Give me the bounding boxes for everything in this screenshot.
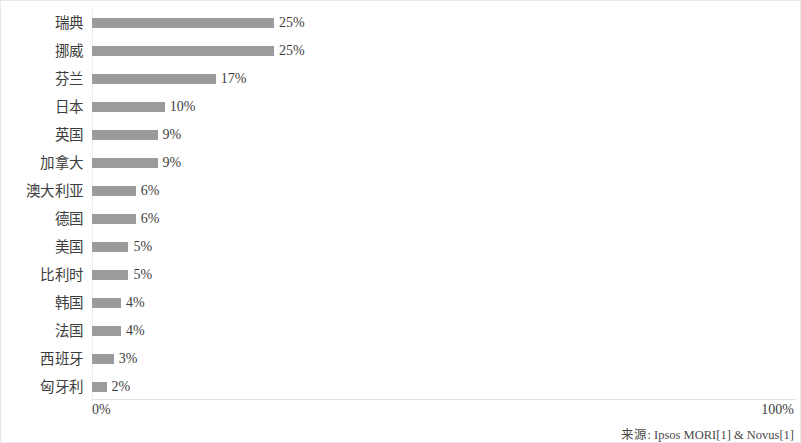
category-label: 挪威 [1, 37, 83, 65]
x-axis-max-label: 100% [761, 402, 794, 418]
bar-value-label: 2% [112, 373, 131, 401]
bar-row: 韩国4% [1, 289, 801, 317]
bar-value-label: 25% [279, 9, 305, 37]
bar-row: 加拿大9% [1, 149, 801, 177]
bar-value-label: 6% [141, 205, 160, 233]
bar [92, 130, 158, 140]
category-label: 日本 [1, 93, 83, 121]
bar-chart: 瑞典25%挪威25%芬兰17%日本10%英国9%加拿大9%澳大利亚6%德国6%美… [0, 0, 801, 443]
bar-value-label: 4% [126, 317, 145, 345]
category-label: 澳大利亚 [1, 177, 83, 205]
category-label: 德国 [1, 205, 83, 233]
plot-area: 瑞典25%挪威25%芬兰17%日本10%英国9%加拿大9%澳大利亚6%德国6%美… [1, 1, 801, 401]
category-label: 韩国 [1, 289, 83, 317]
bar [92, 270, 128, 280]
category-label: 匈牙利 [1, 373, 83, 401]
bar [92, 18, 274, 28]
bar-row: 芬兰17% [1, 65, 801, 93]
bar [92, 186, 136, 196]
bar-track: 5% [92, 261, 801, 289]
category-label: 瑞典 [1, 9, 83, 37]
bar-value-label: 10% [170, 93, 196, 121]
bar [92, 46, 274, 56]
bar-track: 25% [92, 37, 801, 65]
bar-value-label: 5% [133, 261, 152, 289]
bar-track: 9% [92, 121, 801, 149]
bar-track: 9% [92, 149, 801, 177]
bar-value-label: 9% [163, 121, 182, 149]
bar [92, 326, 121, 336]
bar-track: 2% [92, 373, 801, 401]
bar-row: 匈牙利2% [1, 373, 801, 401]
category-label: 加拿大 [1, 149, 83, 177]
bar-value-label: 17% [221, 65, 247, 93]
bar-row: 美国5% [1, 233, 801, 261]
bar-value-label: 9% [163, 149, 182, 177]
bar-row: 法国4% [1, 317, 801, 345]
bar-row: 德国6% [1, 205, 801, 233]
bar-row: 日本10% [1, 93, 801, 121]
bar-row: 西班牙3% [1, 345, 801, 373]
bar-value-label: 3% [119, 345, 138, 373]
bar [92, 102, 165, 112]
x-axis-line [92, 399, 796, 400]
category-label: 英国 [1, 121, 83, 149]
source-note: 来源: Ipsos MORI[1] & Novus[1] [621, 424, 794, 443]
category-label: 法国 [1, 317, 83, 345]
bar-track: 5% [92, 233, 801, 261]
bar-value-label: 25% [279, 37, 305, 65]
bar-value-label: 5% [133, 233, 152, 261]
bar [92, 298, 121, 308]
category-label: 美国 [1, 233, 83, 261]
bar-track: 10% [92, 93, 801, 121]
category-label: 比利时 [1, 261, 83, 289]
x-axis-min-label: 0% [92, 402, 111, 418]
category-label: 西班牙 [1, 345, 83, 373]
bar-track: 6% [92, 205, 801, 233]
bar-track: 6% [92, 177, 801, 205]
bar-value-label: 6% [141, 177, 160, 205]
bar-track: 3% [92, 345, 801, 373]
bar [92, 74, 216, 84]
bar-track: 4% [92, 317, 801, 345]
bar [92, 382, 107, 392]
bar-row: 英国9% [1, 121, 801, 149]
bar [92, 242, 128, 252]
bar-track: 17% [92, 65, 801, 93]
bar [92, 158, 158, 168]
bar-value-label: 4% [126, 289, 145, 317]
bar-row: 澳大利亚6% [1, 177, 801, 205]
bar [92, 354, 114, 364]
bar [92, 214, 136, 224]
bar-row: 瑞典25% [1, 9, 801, 37]
category-label: 芬兰 [1, 65, 83, 93]
bar-row: 挪威25% [1, 37, 801, 65]
bar-track: 4% [92, 289, 801, 317]
bar-track: 25% [92, 9, 801, 37]
bar-row: 比利时5% [1, 261, 801, 289]
